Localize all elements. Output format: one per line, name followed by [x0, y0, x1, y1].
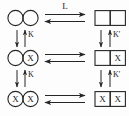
- subunit-occupancy-r1-l-sub1: X: [27, 53, 34, 63]
- state-node-row0-left: [8, 10, 38, 25]
- subunit-square-r0-r-sub0: [95, 11, 110, 26]
- subunit-occupancy-r2-r-sub0: X: [99, 94, 106, 104]
- subunit-square-r0-r-sub1: [110, 11, 125, 26]
- state-node-row1-left: X: [8, 50, 38, 65]
- subunit-circle-r0-l-sub0: [8, 10, 23, 25]
- subunit-circle-r0-l-sub1: [23, 10, 38, 25]
- subunit-occupancy-r2-l-sub0: X: [12, 94, 19, 104]
- arrow-v-right-1-label: K': [113, 70, 121, 79]
- subunit-circle-r1-l-sub0: [8, 50, 23, 65]
- arrow-v-right-0-label: K': [113, 30, 121, 39]
- allosteric-scheme-diagram: L K K' X X: [0, 0, 129, 116]
- arrow-h-0: L: [45, 1, 85, 22]
- arrow-h-2: [45, 96, 85, 103]
- arrow-v-right-1: K': [101, 70, 121, 87]
- arrow-v-left-0: K: [17, 30, 34, 47]
- state-node-row2-left: X X: [8, 91, 38, 106]
- arrow-h-0-label: L: [62, 1, 68, 11]
- subunit-occupancy-r2-r-sub1: X: [115, 94, 122, 104]
- arrow-v-left-0-label: K: [28, 30, 34, 39]
- arrow-h-1: [45, 55, 85, 62]
- subunit-occupancy-r1-r-sub1: X: [115, 53, 122, 63]
- subunit-occupancy-r2-l-sub1: X: [27, 94, 34, 104]
- state-node-row1-right: X: [95, 51, 125, 66]
- state-node-row0-right: [95, 11, 125, 26]
- subunit-square-r1-r-sub0: [95, 51, 110, 66]
- arrow-v-left-1-label: K: [28, 70, 34, 79]
- diagram-canvas: L K K' X X: [0, 0, 129, 116]
- arrow-v-right-0: K': [101, 30, 121, 47]
- state-node-row2-right: X X: [95, 92, 125, 107]
- arrow-v-left-1: K: [17, 70, 34, 87]
